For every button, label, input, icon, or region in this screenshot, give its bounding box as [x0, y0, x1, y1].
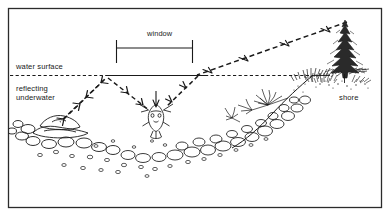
water-surface-label: water surface: [16, 62, 63, 72]
diagram-svg: [0, 0, 390, 216]
window-label: window: [147, 29, 172, 39]
shore-label: shore: [339, 93, 359, 103]
figure-canvas: window water surface reflecting underwat…: [0, 0, 390, 216]
figure-border: [9, 9, 382, 208]
underwater-label: underwater: [16, 93, 55, 103]
